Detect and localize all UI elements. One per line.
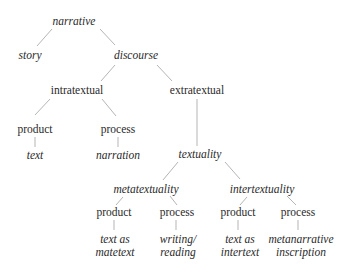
- edge-metatextuality-process: [170, 196, 177, 205]
- leaf-line-1: text as: [221, 233, 259, 246]
- edge-textuality-intertextuality: [225, 162, 240, 179]
- node-meta-process: process: [160, 206, 195, 219]
- edge-intertextuality-process: [287, 196, 296, 205]
- leaf-line-2: matetext: [96, 246, 135, 259]
- node-story: story: [19, 49, 42, 62]
- node-extratextual: extratextual: [170, 84, 224, 97]
- edge-intertextuality-product: [240, 197, 247, 205]
- node-intra-product: product: [17, 123, 52, 136]
- edge-intratextual-process: [102, 99, 116, 116]
- node-discourse: discourse: [114, 49, 158, 62]
- node-textuality: textuality: [179, 148, 222, 161]
- leaf-line-2: intertext: [221, 246, 259, 259]
- node-narration: narration: [96, 149, 140, 162]
- node-intratextual: intratextual: [51, 84, 103, 97]
- node-meta-product: product: [96, 206, 131, 219]
- leaf-line-2: reading: [160, 246, 196, 259]
- node-text-as-intertext: text as intertext: [221, 233, 259, 259]
- node-text: text: [27, 149, 44, 162]
- node-metatextuality: metatextuality: [113, 183, 178, 196]
- edge-narrative-discourse: [100, 29, 115, 45]
- node-intra-process: process: [101, 123, 136, 136]
- leaf-line-1: metanarrative: [268, 233, 333, 246]
- edge-narrative-story: [37, 29, 52, 46]
- node-narrative: narrative: [53, 15, 96, 28]
- node-writing-reading: writing/ reading: [160, 233, 196, 259]
- edge-intratextual-product: [35, 99, 50, 115]
- node-inter-product: product: [220, 206, 255, 219]
- leaf-line-1: text as: [96, 233, 135, 246]
- edge-discourse-extratextual: [157, 65, 172, 81]
- node-text-as-matetext: text as matetext: [96, 233, 135, 259]
- node-inter-process: process: [281, 206, 316, 219]
- edge-discourse-intratextual: [101, 65, 115, 81]
- edge-textuality-metatextuality: [163, 162, 178, 180]
- narrative-tree-diagram: narrative story discourse intratextual e…: [0, 0, 353, 274]
- leaf-line-1: writing/: [160, 233, 196, 246]
- node-metanarrative-inscription: metanarrative inscription: [268, 233, 333, 259]
- edge-metatextuality-product: [116, 197, 123, 205]
- leaf-line-2: inscription: [268, 246, 333, 259]
- node-intertextuality: intertextuality: [230, 183, 295, 196]
